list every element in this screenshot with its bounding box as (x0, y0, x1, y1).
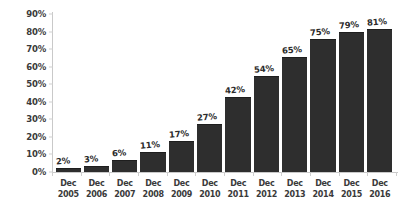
bar-value-label: 17% (168, 128, 189, 140)
x-axis-period: Dec (84, 178, 109, 189)
x-axis-period: Dec (56, 178, 81, 189)
x-axis-tick-mark (396, 172, 397, 176)
bar-value-label: 3% (83, 153, 98, 164)
y-axis-tick-label: 90% (26, 9, 46, 19)
plot-area: 90%80%70%60%50%40%30%20%10%0% 2%3%6%11%1… (52, 14, 396, 172)
x-axis-tick-label: Dec2010 (197, 178, 222, 200)
x-axis-tick-label: Dec2011 (225, 178, 250, 200)
x-axis-tick-mark (367, 172, 368, 176)
bar (282, 57, 307, 172)
x-axis-tick-label: Dec2015 (339, 178, 364, 200)
bar (56, 168, 81, 173)
x-axis-tick-label: Dec2016 (367, 178, 392, 200)
x-axis-year: 2016 (367, 189, 392, 200)
x-axis-period: Dec (112, 178, 137, 189)
y-axis-tick-label: 10% (26, 149, 46, 159)
bar-column: 3% (84, 14, 109, 172)
x-axis-year: 2009 (169, 189, 194, 200)
x-axis-period: Dec (140, 178, 165, 189)
x-axis-year: 2010 (197, 189, 222, 200)
bar-column: 11% (140, 14, 165, 172)
x-axis-tick-mark (224, 172, 225, 176)
x-axis-tick-labels: Dec2005Dec2006Dec2007Dec2008Dec2009Dec20… (52, 178, 396, 200)
bar-value-label: 65% (282, 44, 303, 56)
y-axis-tick-label: 70% (26, 44, 46, 54)
x-axis-year: 2007 (112, 189, 137, 200)
x-axis-period: Dec (367, 178, 392, 189)
bar-column: 6% (112, 14, 137, 172)
bar-value-label: 79% (338, 19, 359, 31)
x-axis-period: Dec (282, 178, 307, 189)
bar-column: 54% (254, 14, 279, 172)
x-axis-tick-label: Dec2014 (310, 178, 335, 200)
bar (367, 29, 392, 172)
x-axis-tick-label: Dec2006 (84, 178, 109, 200)
y-axis-tick-label: 40% (26, 97, 46, 107)
x-axis-tick-mark (109, 172, 110, 176)
x-axis-tick-label: Dec2009 (169, 178, 194, 200)
x-axis-tick-label: Dec2012 (254, 178, 279, 200)
y-axis-tick-label: 30% (26, 114, 46, 124)
bar-column: 17% (169, 14, 194, 172)
x-axis-tick-mark (81, 172, 82, 176)
x-axis-tick-mark (281, 172, 282, 176)
x-axis-period: Dec (254, 178, 279, 189)
bar (112, 160, 137, 172)
bar (197, 124, 222, 172)
bar-column: 79% (339, 14, 364, 172)
x-axis-tick-mark (167, 172, 168, 176)
y-axis-tick-label: 20% (26, 132, 46, 142)
bar (169, 141, 194, 172)
bar-value-label: 54% (253, 63, 274, 75)
y-axis-tick-label: 0% (32, 167, 46, 177)
bar-value-label: 81% (367, 16, 388, 28)
bar-value-label: 11% (140, 139, 161, 151)
x-axis-year: 2012 (254, 189, 279, 200)
bar-value-label: 6% (112, 148, 127, 159)
bar (310, 39, 335, 172)
bar-value-label: 2% (55, 155, 70, 166)
x-axis-year: 2013 (282, 189, 307, 200)
x-axis-year: 2006 (84, 189, 109, 200)
x-axis-year: 2008 (140, 189, 165, 200)
x-axis-tick-mark (195, 172, 196, 176)
bar (225, 97, 250, 172)
x-axis-year: 2014 (310, 189, 335, 200)
y-axis-tick-label: 60% (26, 62, 46, 72)
bar-value-label: 27% (197, 111, 218, 123)
x-axis-tick-mark (253, 172, 254, 176)
bar-column: 27% (197, 14, 222, 172)
bar-column: 75% (310, 14, 335, 172)
x-axis-tick-label: Dec2005 (56, 178, 81, 200)
x-axis-period: Dec (197, 178, 222, 189)
x-axis-period: Dec (225, 178, 250, 189)
bar-value-label: 75% (310, 27, 331, 39)
x-axis-tick-label: Dec2013 (282, 178, 307, 200)
x-axis-tick-mark (339, 172, 340, 176)
x-axis-tick-mark (310, 172, 311, 176)
bar-value-label: 42% (225, 84, 246, 96)
bar (339, 32, 364, 172)
bar-column: 65% (282, 14, 307, 172)
x-axis-year: 2011 (225, 189, 250, 200)
x-axis-period: Dec (310, 178, 335, 189)
bar (140, 152, 165, 172)
x-axis-line (52, 172, 398, 173)
x-axis-year: 2005 (56, 189, 81, 200)
x-axis-tick-mark (138, 172, 139, 176)
x-axis-tick-label: Dec2007 (112, 178, 137, 200)
bar-column: 42% (225, 14, 250, 172)
bar (254, 76, 279, 172)
x-axis-tick-label: Dec2008 (140, 178, 165, 200)
bar-column: 2% (56, 14, 81, 172)
bar (84, 166, 109, 172)
bar-series: 2%3%6%11%17%27%42%54%65%75%79%81% (52, 14, 396, 172)
x-axis-period: Dec (169, 178, 194, 189)
bar-chart: 90%80%70%60%50%40%30%20%10%0% 2%3%6%11%1… (0, 0, 404, 212)
y-axis-tick-label: 50% (26, 79, 46, 89)
x-axis-tick-mark (52, 172, 53, 176)
x-axis-period: Dec (339, 178, 364, 189)
y-axis-tick-label: 80% (26, 27, 46, 37)
bar-column: 81% (367, 14, 392, 172)
x-axis-year: 2015 (339, 189, 364, 200)
